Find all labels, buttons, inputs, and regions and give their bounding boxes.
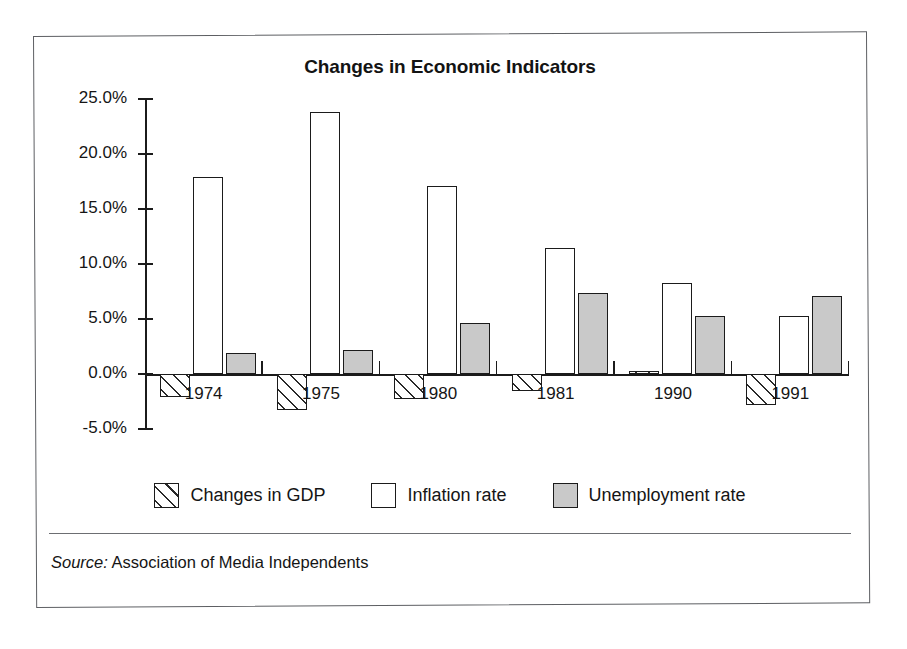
legend-label: Changes in GDP — [190, 485, 325, 506]
legend-swatch-icon — [553, 483, 578, 508]
bar-inflation-rate-1981 — [545, 248, 575, 375]
bar-unemployment-rate-1981 — [578, 293, 608, 374]
y-tick-label: 5.0% — [88, 308, 127, 328]
zero-baseline — [145, 374, 849, 376]
x-axis-label-1980: 1980 — [380, 384, 497, 404]
bar-unemployment-rate-1975 — [343, 350, 373, 374]
x-group-separator — [613, 361, 614, 374]
x-group-separator — [848, 361, 849, 374]
bar-unemployment-rate-1990 — [695, 316, 725, 374]
chart-title: Changes in Economic Indicators — [33, 56, 867, 78]
x-group-separator — [379, 361, 380, 374]
legend-item-unemployment-rate[interactable]: Unemployment rate — [553, 483, 746, 508]
y-axis-stub — [145, 98, 153, 99]
legend-swatch-icon — [154, 483, 179, 508]
y-tick-label: 0.0% — [88, 363, 127, 383]
legend-item-changes-in-gdp[interactable]: Changes in GDP — [154, 483, 325, 508]
y-axis-stub — [145, 153, 153, 154]
bar-inflation-rate-1974 — [193, 177, 223, 374]
chart-legend: Changes in GDPInflation rateUnemployment… — [33, 483, 867, 508]
x-axis-label-1990: 1990 — [614, 384, 731, 404]
y-tick-label: -5.0% — [83, 418, 127, 438]
bar-changes-in-gdp-1990 — [629, 371, 659, 374]
source-text: Association of Media Independents — [112, 553, 369, 571]
x-group-separator — [731, 361, 732, 374]
bar-inflation-rate-1980 — [427, 186, 457, 374]
y-tick-label: 25.0% — [79, 88, 127, 108]
bar-unemployment-rate-1980 — [460, 323, 490, 374]
y-axis-stub — [145, 318, 153, 319]
legend-item-inflation-rate[interactable]: Inflation rate — [371, 483, 506, 508]
legend-label: Unemployment rate — [589, 485, 746, 506]
y-tick-label: 10.0% — [79, 253, 127, 273]
bar-inflation-rate-1991 — [779, 316, 809, 374]
legend-swatch-icon — [371, 483, 396, 508]
legend-label: Inflation rate — [407, 485, 506, 506]
bar-inflation-rate-1975 — [310, 112, 340, 374]
x-group-separator — [496, 361, 497, 374]
y-axis-stub — [145, 263, 153, 264]
source-divider — [49, 533, 851, 534]
y-tick-label: 20.0% — [79, 143, 127, 163]
source-note: Source: Association of Media Independent… — [51, 553, 368, 572]
source-label: Source: — [51, 553, 108, 571]
bar-unemployment-rate-1991 — [812, 296, 842, 374]
bar-unemployment-rate-1974 — [226, 353, 256, 374]
y-axis-stub — [145, 428, 153, 429]
y-tick-label: 15.0% — [79, 198, 127, 218]
x-axis-label-1975: 1975 — [262, 384, 379, 404]
plot-area: 25.0%20.0%15.0%10.0%5.0%0.0%-5.0% 197419… — [145, 99, 849, 429]
bar-inflation-rate-1990 — [662, 283, 692, 374]
y-axis-stub — [145, 208, 153, 209]
figure-container: Changes in Economic Indicators 25.0%20.0… — [33, 36, 867, 608]
x-group-separator — [261, 361, 262, 374]
x-axis-label-1974: 1974 — [145, 384, 262, 404]
x-axis-label-1991: 1991 — [732, 384, 849, 404]
y-axis-stub — [145, 373, 153, 374]
x-axis-label-1981: 1981 — [497, 384, 614, 404]
